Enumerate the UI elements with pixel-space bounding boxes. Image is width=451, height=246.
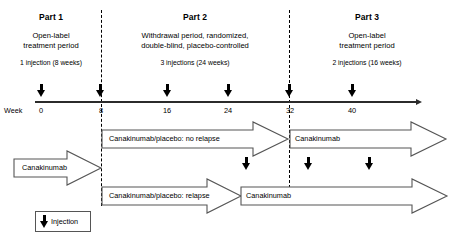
part-2-injections: 3 injections (24 weeks) [104,59,286,66]
part-1-description: Open-label treatment period [2,31,100,50]
divider-week-32 [289,10,290,188]
legend: Injection [35,211,91,232]
part-3-description-line1: Open-label [292,31,442,41]
part-1-header: Part 1 Open-label treatment period 1 inj… [2,12,100,66]
arm-arrow-part1: Canakinumab [13,150,103,186]
study-design-diagram: Part 1 Open-label treatment period 1 inj… [0,0,451,246]
axis-injection-week-0 [37,84,46,97]
axis-injection-week-8 [96,84,105,97]
part-2-description-line1: Withdrawal period, randomized, [104,31,286,41]
arm-label-no-relapse: Canakinumab/placebo: no relapse [109,135,220,142]
tick-label-week-32: 32 [280,106,300,115]
part-3-title: Part 3 [292,12,442,22]
part-1-injections: 1 injection (8 weeks) [2,59,100,66]
tick-label-week-16: 16 [157,106,177,115]
part-3-injections: 2 injections (16 weeks) [292,59,442,66]
part-1-description-line2: treatment period [2,41,100,51]
arm-label-relapse: Canakinumab/placebo: relapse [109,192,210,199]
arm-label-relapse-rescue: Canakinumab [246,192,291,199]
part-3-header: Part 3 Open-label treatment period 2 inj… [292,12,442,66]
part-2-title: Part 2 [104,12,286,22]
axis-injection-week-16 [163,84,172,97]
mid-injection-3 [365,157,374,170]
arm-label-part1: Canakinumab [22,164,67,171]
part-1-description-line1: Open-label [2,31,100,41]
part-2-description-line2: double-blind, placebo-controlled [104,41,286,51]
timeline-axis [35,101,417,103]
part-3-description: Open-label treatment period [292,31,442,50]
axis-injection-week-40 [348,84,357,97]
mid-injection-2 [304,157,313,170]
part-3-description-line2: treatment period [292,41,442,51]
tick-label-week-40: 40 [342,106,362,115]
arm-arrow-no-relapse: Canakinumab/placebo: no relapse [101,121,289,157]
tick-label-week-0: 0 [31,106,51,115]
mid-injection-1 [242,157,251,170]
tick-label-week-24: 24 [218,106,238,115]
legend-label-injection: Injection [51,217,78,226]
part-2-header: Part 2 Withdrawal period, randomized, do… [104,12,286,66]
tick-label-week-8: 8 [91,106,111,115]
part-1-title: Part 1 [2,12,100,22]
timeline-axis-arrowhead [416,99,422,105]
axis-injection-week-24 [224,84,233,97]
week-axis-label: Week [4,106,22,115]
down-arrow-icon [40,215,49,228]
arm-arrow-no-relapse-part3: Canakinumab [289,121,449,157]
part-2-description: Withdrawal period, randomized, double-bl… [104,31,286,50]
axis-injection-week-32 [285,84,294,97]
arm-label-no-relapse-part3: Canakinumab [295,135,340,142]
arm-arrow-relapse-rescue: Canakinumab [240,178,450,214]
arm-arrow-relapse: Canakinumab/placebo: relapse [101,178,243,214]
